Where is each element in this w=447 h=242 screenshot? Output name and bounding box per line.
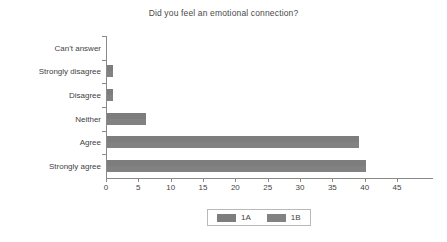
legend-swatch-icon (267, 214, 286, 222)
bar-1b (107, 119, 146, 125)
y-axis-tick (102, 107, 106, 108)
x-axis-label: 5 (136, 183, 140, 192)
x-axis-tick (138, 178, 139, 182)
y-axis-tick (102, 60, 106, 61)
y-axis-label: Strongly agree (49, 162, 101, 171)
x-axis-tick (300, 178, 301, 182)
x-axis-label: 40 (360, 183, 369, 192)
legend-swatch-icon (217, 214, 236, 222)
legend-label: 1A (241, 213, 251, 222)
y-axis-tick (102, 36, 106, 37)
category-row: Disagree (106, 83, 397, 107)
x-axis-label: 15 (199, 183, 208, 192)
x-axis-label: 30 (296, 183, 305, 192)
x-axis-label: 0 (104, 183, 108, 192)
category-row: Can't answer (106, 36, 397, 60)
legend-item-1a[interactable]: 1A (217, 213, 251, 222)
y-axis-label: Can't answer (55, 43, 101, 52)
x-axis-tick (106, 178, 107, 182)
plot-area: Can't answerStrongly disagreeDisagreeNei… (106, 36, 397, 178)
y-axis-tick (102, 154, 106, 155)
y-axis-label: Disagree (69, 91, 101, 100)
x-axis-tick (203, 178, 204, 182)
x-axis-tick (171, 178, 172, 182)
y-axis-label: Neither (75, 114, 101, 123)
x-axis-label: 45 (393, 183, 402, 192)
bar-1b (107, 95, 113, 101)
legend-label: 1B (291, 213, 301, 222)
x-axis-tick (397, 178, 398, 182)
x-axis-label: 20 (231, 183, 240, 192)
category-row: Neither (106, 107, 397, 131)
x-axis-tick (268, 178, 269, 182)
x-axis-label: 10 (166, 183, 175, 192)
bar-1b (107, 71, 113, 77)
x-axis-line (106, 178, 433, 179)
x-axis-label: 35 (328, 183, 337, 192)
y-axis-label: Agree (80, 138, 101, 147)
x-axis-tick (365, 178, 366, 182)
y-axis-tick (102, 131, 106, 132)
chart-title: Did you feel an emotional connection? (0, 8, 447, 18)
y-axis-label: Strongly disagree (39, 67, 101, 76)
category-row: Agree (106, 131, 397, 155)
y-axis-tick (102, 83, 106, 84)
bar-chart: Did you feel an emotional connection? Ca… (0, 0, 447, 242)
category-row: Strongly agree (106, 154, 397, 178)
bar-1b (107, 142, 359, 148)
x-axis-label: 25 (263, 183, 272, 192)
bar-1b (107, 166, 366, 172)
chart-legend: 1A1B (207, 209, 311, 226)
category-row: Strongly disagree (106, 60, 397, 84)
legend-item-1b[interactable]: 1B (267, 213, 301, 222)
x-axis-tick (332, 178, 333, 182)
x-axis-tick (235, 178, 236, 182)
